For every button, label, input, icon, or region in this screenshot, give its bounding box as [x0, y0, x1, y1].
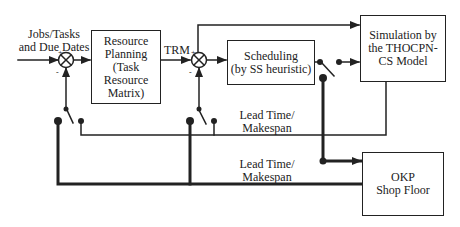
- junction-2-plus-sign: +: [191, 49, 196, 57]
- input-label: Jobs/Tasks and Due Dates: [14, 28, 94, 54]
- control-block-diagram: Jobs/Tasks and Due Dates + - + - TRM Res…: [0, 0, 460, 227]
- resource-planning-line-5: Matrix): [108, 87, 145, 100]
- resource-planning-line-4: Resource: [104, 74, 149, 87]
- scheduling-line-2: (by SS heuristic): [231, 63, 312, 76]
- shop-floor-line-2: Shop Floor: [376, 184, 430, 197]
- trm-label: TRM: [164, 44, 190, 57]
- junction-2-minus-sign: -: [189, 69, 192, 77]
- switch-2-pivot-dot: [197, 107, 202, 112]
- feedback-switch-1-blade: [67, 110, 73, 123]
- shop-floor-junction-dot: [320, 158, 327, 165]
- resource-planning-block: Resource Planning (Task Resource Matrix): [91, 30, 161, 104]
- shop-floor-feedback-label: Lead Time/ Makespan: [232, 158, 302, 184]
- switch-2-sim-contact-dot: [211, 118, 217, 124]
- scheduling-line-1: Scheduling: [244, 50, 298, 63]
- output-switch-pivot-dot: [317, 59, 323, 65]
- simulation-block: Simulation by the THOCPN- CS Model: [360, 15, 446, 82]
- output-switch-sim-contact-dot: [336, 59, 342, 65]
- output-switch-shop-contact-dot: [319, 74, 327, 82]
- resource-planning-line-3: (Task: [113, 61, 139, 74]
- shop-floor-feedback-line: [58, 122, 362, 184]
- scheduling-block: Scheduling (by SS heuristic): [227, 40, 315, 85]
- shop-feedback-line-2: Makespan: [232, 171, 302, 184]
- input-label-line-2: and Due Dates: [14, 41, 94, 54]
- output-switch-blade: [321, 62, 334, 76]
- simulation-feedback-label: Lead Time/ Makespan: [232, 109, 302, 135]
- switch-1-sim-contact-dot: [78, 118, 84, 124]
- switch-2-shop-contact-dot: [186, 117, 194, 125]
- junction-1-minus-sign: -: [56, 69, 59, 77]
- junction-1-plus-sign: +: [58, 49, 63, 57]
- feedback-switch-2-blade: [199, 110, 206, 124]
- simulation-line-3: CS Model: [378, 55, 427, 68]
- switch-1-pivot-dot: [64, 107, 69, 112]
- resource-planning-line-2: Planning: [105, 48, 148, 61]
- sim-feedback-line-2: Makespan: [232, 122, 302, 135]
- switch-1-shop-contact-dot: [54, 117, 62, 125]
- shop-floor-block: OKP Shop Floor: [362, 152, 444, 216]
- resource-planning-line-1: Resource: [104, 35, 149, 48]
